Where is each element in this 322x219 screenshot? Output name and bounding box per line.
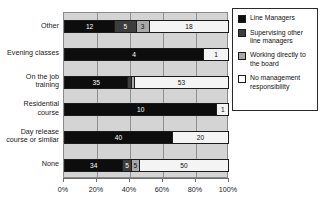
- y-axis-label: Evening classes: [0, 49, 59, 58]
- bar-segment: 4: [64, 48, 204, 61]
- y-axis-label-line: Other: [0, 22, 59, 31]
- bar-segment-label: 5: [133, 162, 137, 169]
- y-axis-label: On the jobtraining: [0, 73, 59, 90]
- bar-segment-label: 20: [197, 134, 204, 141]
- gridline: [97, 13, 98, 177]
- bar-segment: 3: [137, 20, 150, 33]
- bar-segment: 5: [123, 159, 131, 172]
- legend-item-label: No management responsibility: [250, 74, 313, 91]
- bar-segment-label: 3: [141, 23, 145, 30]
- bar-segment-label: 53: [178, 79, 185, 86]
- bar-segment-label: 5: [125, 162, 129, 169]
- x-axis-tick: [228, 178, 229, 182]
- bar-row: 345550: [64, 159, 227, 172]
- bar-segment-label: 50: [180, 162, 187, 169]
- bar-segment-label: 5: [124, 23, 128, 30]
- bar-segment: 12: [64, 20, 115, 33]
- bar-segment-label: 18: [185, 23, 192, 30]
- bar-segment: 1: [204, 48, 229, 61]
- bar-segment: 50: [140, 159, 229, 172]
- bar-row: 4020: [64, 131, 227, 144]
- bar-segment-label: 4: [132, 51, 136, 58]
- x-axis-tick: [129, 178, 130, 182]
- x-axis-line: [63, 178, 228, 179]
- legend-swatch-board: [238, 52, 246, 60]
- gridline: [196, 13, 197, 177]
- bar-segment: 20: [173, 131, 229, 144]
- bar-row: 41: [64, 48, 227, 61]
- y-axis-label-line: training: [0, 81, 59, 90]
- bar-row: 101: [64, 103, 227, 116]
- legend-swatch-supervising: [238, 29, 246, 37]
- y-axis-label-line: None: [0, 160, 59, 169]
- bar-segment-label: 40: [115, 134, 122, 141]
- bar-segment-label: 34: [90, 162, 97, 169]
- y-axis-label: None: [0, 160, 59, 169]
- legend-item-label: Working directly to the board: [250, 51, 313, 68]
- x-axis-tick-label: 60%: [155, 185, 169, 194]
- x-axis-tick-label: 0%: [58, 185, 68, 194]
- legend-item[interactable]: No management responsibility: [238, 74, 313, 91]
- bar-segment: 53: [135, 76, 229, 89]
- legend-item-label: Supervising other line managers: [250, 29, 313, 46]
- x-axis-tick: [63, 178, 64, 182]
- chart-legend: Line ManagersSupervising other line mana…: [232, 8, 318, 111]
- bar-segment-label: 1: [221, 106, 225, 113]
- y-axis-category-labels: OtherEvening classesOn the jobtrainingRe…: [0, 12, 62, 178]
- bar-segment: 1: [217, 103, 229, 116]
- x-axis-tick-label: 20%: [89, 185, 103, 194]
- bar-segment-label: 10: [137, 106, 144, 113]
- x-axis-tick-label: 40%: [122, 185, 136, 194]
- gridline: [130, 13, 131, 177]
- legend-swatch-none: [238, 75, 246, 83]
- y-axis-label-line: course or similar: [0, 136, 59, 145]
- x-axis-tick: [162, 178, 163, 182]
- bar-segment: 35: [64, 76, 128, 89]
- legend-item[interactable]: Working directly to the board: [238, 51, 313, 68]
- legend-item[interactable]: Supervising other line managers: [238, 29, 313, 46]
- bar-segment-label: 1: [214, 51, 218, 58]
- bar-segment: 18: [150, 20, 229, 33]
- y-axis-label: Other: [0, 22, 59, 31]
- bar-segment: 10: [64, 103, 217, 116]
- bar-segment-label: 12: [86, 23, 93, 30]
- bar-segment-label: 35: [93, 79, 100, 86]
- bar-segment: 5: [115, 20, 136, 33]
- y-axis-label-line: Evening classes: [0, 49, 59, 58]
- bar-segment: 34: [64, 159, 123, 172]
- x-axis-tick-label: 100%: [219, 185, 237, 194]
- stacked-bar-chart: OtherEvening classesOn the jobtrainingRe…: [0, 0, 322, 219]
- gridline: [163, 13, 164, 177]
- x-axis-tick-label: 80%: [188, 185, 202, 194]
- bar-row: 3553: [64, 76, 227, 89]
- y-axis-label: Day releasecourse or similar: [0, 128, 59, 145]
- legend-item[interactable]: Line Managers: [238, 14, 313, 23]
- y-axis-label: Residentialcourse: [0, 100, 59, 117]
- bar-segment: 5: [132, 159, 140, 172]
- x-axis-tick: [96, 178, 97, 182]
- y-axis-label-line: course: [0, 109, 59, 118]
- plot-area: 1253184135531014020345550: [63, 12, 228, 178]
- legend-swatch-line-managers: [238, 15, 246, 23]
- bar-segment: 40: [64, 131, 173, 144]
- x-axis-tick: [195, 178, 196, 182]
- legend-item-label: Line Managers: [250, 14, 295, 22]
- bar-row: 125318: [64, 20, 227, 33]
